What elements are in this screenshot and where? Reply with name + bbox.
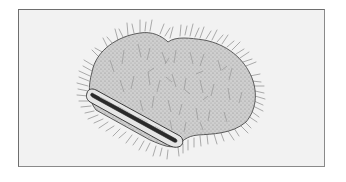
seed-body [89, 33, 255, 147]
seed-illustration [0, 0, 346, 182]
